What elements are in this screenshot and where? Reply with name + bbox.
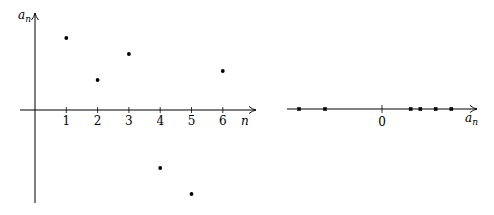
sequence-point (64, 36, 68, 40)
n-tick-label: 1 (62, 114, 70, 128)
n-axis-label: n (241, 114, 249, 128)
number-line-point (323, 107, 327, 111)
n-tick-label: 6 (219, 114, 227, 128)
n-tick-label: 2 (94, 114, 102, 128)
sequence-point (96, 78, 100, 82)
a-n-axis-label: an (18, 8, 31, 24)
a-n-label-subscript: n (25, 14, 31, 24)
sequence-point (127, 52, 131, 56)
number-line-point (297, 107, 301, 111)
number-line-label-subscript: n (472, 117, 478, 127)
sequence-point (158, 166, 162, 170)
number-line-plot: 0 an (287, 105, 478, 129)
n-tick-label: 4 (156, 114, 164, 128)
sequence-point (221, 69, 225, 73)
zero-label: 0 (378, 115, 386, 129)
number-line-point (419, 107, 423, 111)
number-line-axis-label: an (465, 111, 478, 127)
number-line-point (409, 107, 413, 111)
sequence-point (190, 192, 194, 196)
number-line-point (434, 107, 438, 111)
sequence-diagram: 123456 n an 0 an (0, 0, 494, 215)
number-line-label-main: a (465, 111, 472, 125)
n-tick-label: 5 (188, 114, 196, 128)
sequence-points (64, 36, 224, 196)
a-n-label-main: a (18, 8, 25, 22)
n-tick-label: 3 (125, 114, 133, 128)
sequence-plot: 123456 n an (18, 8, 256, 203)
number-line-point (450, 107, 454, 111)
